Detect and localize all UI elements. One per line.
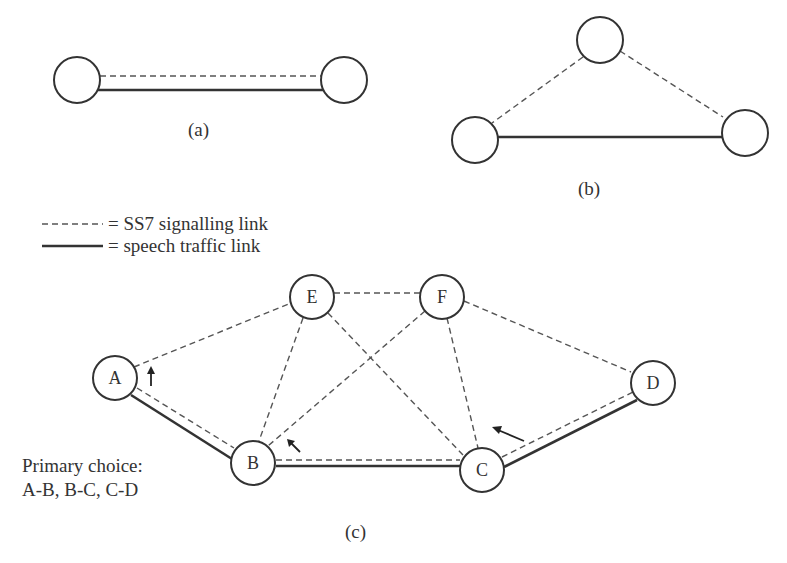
node-b-top xyxy=(577,17,623,63)
arrow-up-left-icon-2 xyxy=(492,426,524,441)
panel-b xyxy=(452,17,768,163)
node-D: D xyxy=(631,361,675,405)
speech-link-A-B xyxy=(131,395,232,459)
svg-text:B: B xyxy=(247,453,259,473)
node-b-right xyxy=(722,110,768,156)
node-C: C xyxy=(460,448,504,492)
panel-c-nodes: E F A B C D xyxy=(93,275,675,492)
primary-choice-routes: A-B, B-C, C-D xyxy=(22,478,138,502)
node-a-left xyxy=(54,57,100,103)
node-b-left xyxy=(452,117,498,163)
caption-c: (c) xyxy=(345,520,366,544)
arrow-up-left-icon xyxy=(287,439,300,452)
panel-a xyxy=(54,57,367,103)
signalling-link-F-C xyxy=(447,318,478,448)
primary-choice-title: Primary choice: xyxy=(22,454,143,478)
signalling-link-b-left xyxy=(492,57,583,123)
signalling-link-A-B xyxy=(137,388,234,448)
signalling-link-b-right xyxy=(620,51,723,117)
svg-text:F: F xyxy=(437,287,447,307)
svg-text:E: E xyxy=(307,287,318,307)
svg-text:A: A xyxy=(109,368,122,388)
panel-c-links xyxy=(131,293,637,467)
legend-signalling-label: = SS7 signalling link xyxy=(108,212,268,236)
svg-text:C: C xyxy=(476,460,488,480)
speech-link-C-D xyxy=(504,400,637,467)
node-A: A xyxy=(93,356,137,400)
signalling-link-F-D xyxy=(464,301,631,372)
signalling-link-F-B xyxy=(268,311,425,446)
svg-text:D: D xyxy=(647,373,660,393)
signalling-link-E-B xyxy=(259,318,303,441)
arrow-up-icon xyxy=(147,366,155,386)
caption-a: (a) xyxy=(188,118,209,142)
signalling-link-E-C xyxy=(328,313,463,455)
node-B: B xyxy=(231,441,275,485)
node-a-right xyxy=(321,57,367,103)
node-E: E xyxy=(290,275,334,319)
legend-speech-label: = speech traffic link xyxy=(108,234,260,258)
signalling-link-A-E xyxy=(134,303,291,367)
panel-c-arrows xyxy=(147,366,524,452)
signalling-link-C-D xyxy=(502,392,633,457)
node-F: F xyxy=(420,275,464,319)
caption-b: (b) xyxy=(578,177,600,201)
